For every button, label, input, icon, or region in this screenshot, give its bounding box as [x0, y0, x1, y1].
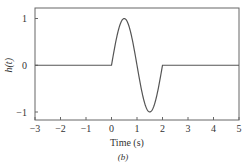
x-tick-label: 5 — [237, 123, 242, 134]
chart: −3−2−101234510−1Time (s)h(t)(b) — [0, 0, 243, 164]
x-tick-label: −1 — [81, 123, 92, 134]
y-tick-label: −1 — [16, 107, 27, 118]
x-tick-label: 0 — [109, 123, 114, 134]
x-tick-label: 3 — [186, 123, 191, 134]
y-axis-label: h(t) — [3, 57, 15, 72]
x-tick-label: 4 — [211, 123, 216, 134]
y-tick-label: 1 — [22, 13, 27, 24]
plot-area: −3−2−101234510−1Time (s)h(t)(b) — [3, 8, 242, 162]
y-tick-label: 0 — [22, 60, 27, 71]
figure-caption: (b) — [118, 152, 129, 162]
x-tick-label: 1 — [135, 123, 140, 134]
x-tick-label: −3 — [30, 123, 41, 134]
x-axis-label: Time (s) — [110, 137, 144, 149]
x-tick-label: 2 — [160, 123, 165, 134]
x-tick-label: −2 — [55, 123, 66, 134]
series-line-h-t — [35, 19, 239, 113]
